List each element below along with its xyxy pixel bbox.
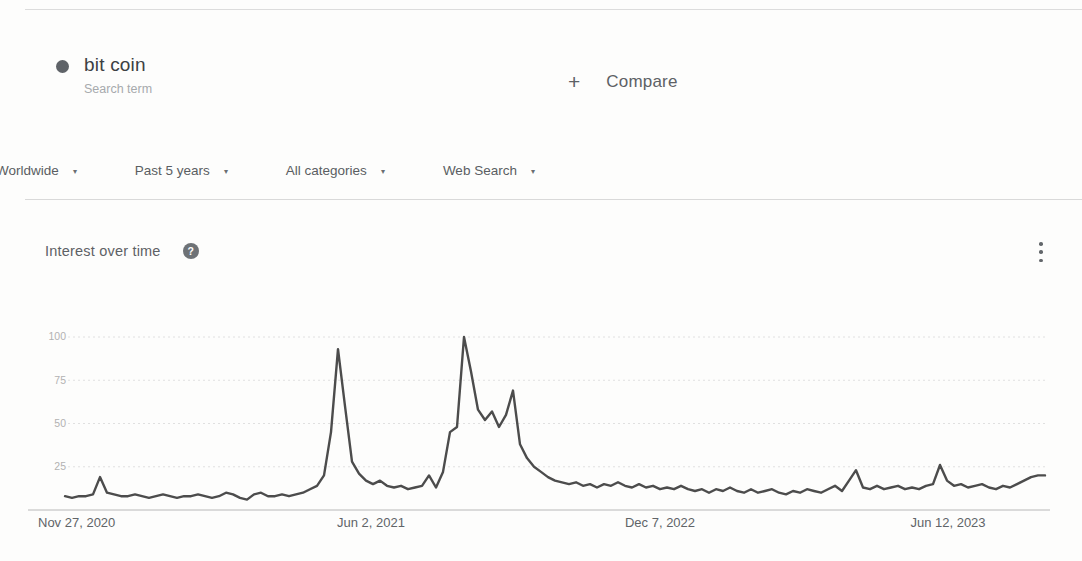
section-divider xyxy=(25,199,1082,200)
trend-chart xyxy=(0,0,1082,561)
filter-region-dropdown[interactable]: Worldwide ▾ xyxy=(0,163,77,178)
x-axis-label: Jun 2, 2021 xyxy=(337,515,405,530)
kebab-dot xyxy=(1039,250,1043,254)
chevron-down-icon: ▾ xyxy=(73,165,77,176)
y-axis-label: 100 xyxy=(34,330,66,342)
google-trends-page: bit coin Search term + Compare Worldwide… xyxy=(0,0,1082,561)
search-term-subtitle: Search term xyxy=(84,82,152,96)
plus-icon: + xyxy=(568,70,580,94)
filter-bar: Worldwide ▾ Past 5 years ▾ All categorie… xyxy=(0,163,535,178)
filter-timerange-dropdown[interactable]: Past 5 years ▾ xyxy=(135,163,228,178)
compare-button[interactable]: + Compare xyxy=(568,70,678,94)
filter-category-label: All categories xyxy=(286,163,367,178)
x-axis-label: Nov 27, 2020 xyxy=(38,515,115,530)
card-top-border xyxy=(25,9,1082,10)
chevron-down-icon: ▾ xyxy=(224,165,228,176)
kebab-dot xyxy=(1039,242,1043,246)
x-axis-label: Dec 7, 2022 xyxy=(625,515,695,530)
chart-line xyxy=(65,337,1045,500)
y-axis-label: 25 xyxy=(34,460,66,472)
chevron-down-icon: ▾ xyxy=(381,165,385,176)
kebab-dot xyxy=(1039,259,1043,263)
x-axis-label: Jun 12, 2023 xyxy=(910,515,985,530)
search-term-title: bit coin xyxy=(84,54,152,76)
series-color-dot xyxy=(56,60,69,73)
help-icon[interactable]: ? xyxy=(183,243,199,259)
filter-searchtype-dropdown[interactable]: Web Search ▾ xyxy=(443,163,535,178)
more-options-button[interactable] xyxy=(1034,241,1048,263)
compare-label: Compare xyxy=(606,72,677,92)
filter-region-label: Worldwide xyxy=(0,163,59,178)
y-axis-label: 50 xyxy=(34,417,66,429)
y-axis-label: 75 xyxy=(34,374,66,386)
interest-over-time-title: Interest over time xyxy=(45,243,161,259)
chevron-down-icon: ▾ xyxy=(531,165,535,176)
filter-category-dropdown[interactable]: All categories ▾ xyxy=(286,163,385,178)
section-header: Interest over time ? xyxy=(45,243,199,259)
filter-searchtype-label: Web Search xyxy=(443,163,517,178)
search-term-chip[interactable]: bit coin Search term xyxy=(56,54,152,96)
filter-timerange-label: Past 5 years xyxy=(135,163,210,178)
